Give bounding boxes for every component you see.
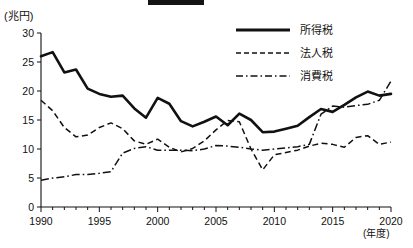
series-group bbox=[41, 52, 391, 180]
y-tick-label: 20 bbox=[22, 85, 34, 97]
y-tick-label: 30 bbox=[22, 27, 34, 39]
x-tick-label: 2000 bbox=[146, 215, 170, 227]
y-tick-label: 25 bbox=[22, 56, 34, 68]
x-tick-label: 2015 bbox=[321, 215, 345, 227]
x-tick-label: 2010 bbox=[263, 215, 287, 227]
chart-legend: 所得税 法人税 消費税 bbox=[236, 23, 333, 82]
tax-revenue-chart: (兆円) (年度) 051015202530 19901995200020052… bbox=[0, 0, 413, 248]
x-tick-label: 1995 bbox=[88, 215, 112, 227]
x-tick-label: 1990 bbox=[29, 215, 53, 227]
legend-label-income-tax: 所得税 bbox=[300, 23, 333, 36]
y-tick-label: 15 bbox=[22, 114, 34, 126]
legend-label-corporate-tax: 法人税 bbox=[300, 46, 333, 59]
y-tick-label: 5 bbox=[28, 172, 34, 184]
series-line-income-tax bbox=[41, 52, 391, 132]
x-tick-group bbox=[41, 207, 391, 212]
y-tick-group bbox=[37, 33, 41, 207]
x-tick-label: 2005 bbox=[204, 215, 228, 227]
y-tick-label: 10 bbox=[22, 143, 34, 155]
y-tick-label: 0 bbox=[28, 201, 34, 213]
x-tick-label-group: 1990199520002005201020152020 bbox=[29, 215, 403, 227]
y-tick-label-group: 051015202530 bbox=[22, 27, 34, 213]
legend-label-consumption-tax: 消費税 bbox=[300, 69, 333, 82]
y-axis: 051015202530 bbox=[22, 27, 41, 213]
x-axis: 1990199520002005201020152020 bbox=[29, 207, 403, 227]
x-tick-label: 2020 bbox=[379, 215, 403, 227]
chart-plot-area: 051015202530 199019952000200520102015202… bbox=[0, 0, 413, 248]
series-line-corporate-tax bbox=[41, 100, 391, 170]
